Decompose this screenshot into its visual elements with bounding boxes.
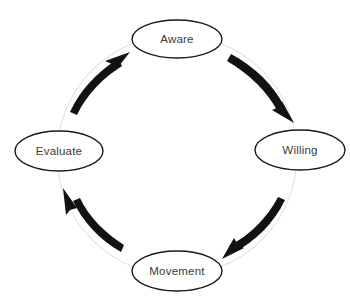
edge-evaluate-to-aware (70, 52, 130, 115)
arrow-aware-to-willing-body (227, 54, 285, 112)
edge-aware-to-willing (227, 54, 294, 123)
node-movement[interactable]: Movement (132, 251, 222, 291)
node-aware-label: Aware (160, 33, 193, 45)
cycle-diagram-canvas: Aware Willing Movement Evaluate (0, 0, 350, 305)
node-evaluate[interactable]: Evaluate (15, 131, 103, 171)
edge-willing-to-movement (222, 197, 285, 259)
edge-movement-to-evaluate (63, 188, 124, 252)
node-willing[interactable]: Willing (255, 130, 345, 170)
node-evaluate-label: Evaluate (36, 145, 82, 157)
node-movement-label: Movement (149, 265, 205, 277)
cycle-diagram: Aware Willing Movement Evaluate (0, 0, 350, 305)
node-aware[interactable]: Aware (132, 20, 222, 58)
arrow-movement-to-evaluate-body (73, 198, 124, 252)
node-willing-label: Willing (282, 144, 317, 156)
